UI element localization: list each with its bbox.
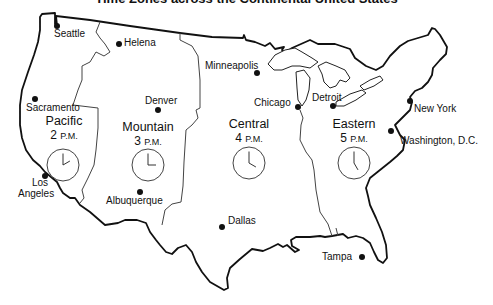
city-dot (407, 98, 413, 104)
city-label-seattle: Seattle (54, 29, 85, 40)
zone-suffix: P.M. (245, 134, 262, 144)
city-dot (116, 41, 122, 47)
zone-time-mountain: 3 P.M. (118, 134, 178, 148)
zone-suffix: P.M. (350, 134, 367, 144)
city-label-helena: Helena (124, 38, 156, 49)
clock-eastern (338, 147, 370, 179)
lake-michigan (296, 70, 310, 106)
lake-superior (268, 48, 318, 70)
city-label-dallas: Dallas (228, 216, 256, 227)
city-label-los-angeles: LosAngeles (18, 178, 48, 199)
zone-name-eastern: Eastern (327, 117, 381, 131)
city-label-tampa: Tampa (322, 252, 352, 263)
city-dot (155, 107, 161, 113)
lake-ontario (360, 76, 383, 90)
clock-pacific (47, 149, 79, 181)
city-dot (359, 254, 365, 260)
city-label-sacramento: Sacramento (26, 103, 80, 114)
zone-name-mountain: Mountain (118, 120, 178, 134)
city-label-denver: Denver (145, 96, 177, 107)
zone-suffix: P.M. (144, 137, 161, 147)
city-label-new-york: New York (414, 104, 456, 115)
zone-hour: 5 (340, 131, 347, 145)
zone-hour: 2 (50, 128, 57, 142)
zone-name-pacific: Pacific (44, 114, 84, 128)
clock-mountain (132, 149, 164, 181)
zone-time-pacific: 2 P.M. (44, 128, 84, 142)
city-label-albuquerque: Albuquerque (106, 196, 163, 207)
city-label-chicago: Chicago (254, 98, 291, 109)
zone-time-eastern: 5 P.M. (327, 131, 381, 145)
zone-hour: 3 (134, 134, 141, 148)
country-outline (20, 13, 447, 290)
zone-time-central: 4 P.M. (222, 131, 276, 145)
city-label-minneapolis: Minneapolis (205, 61, 258, 72)
city-label-washington-dc: Washington, D.C. (400, 136, 478, 147)
zone-name-central: Central (222, 117, 276, 131)
lake-huron (318, 62, 350, 88)
city-dot (295, 104, 301, 110)
zone-hour: 4 (235, 131, 242, 145)
city-dot (388, 128, 394, 134)
us-map (0, 0, 493, 305)
clock-central (233, 147, 265, 179)
zone-suffix: P.M. (60, 131, 77, 141)
city-dot (330, 103, 336, 109)
city-label-detroit: Detroit (312, 93, 341, 104)
city-dot (219, 224, 225, 230)
